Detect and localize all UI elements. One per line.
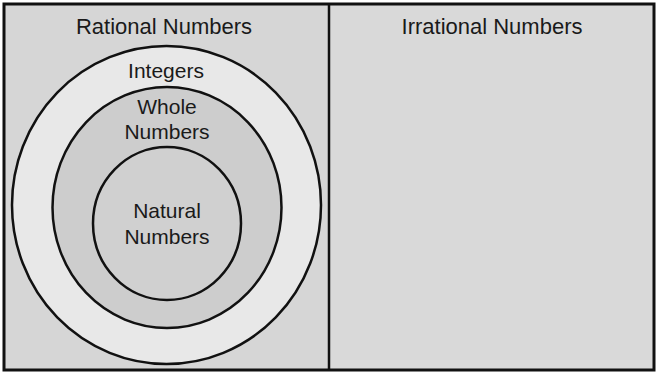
natural-numbers-label-line2: Numbers: [124, 225, 209, 248]
rational-numbers-label: Rational Numbers: [76, 14, 252, 39]
irrational-panel: [329, 4, 654, 370]
whole-numbers-label-line2: Numbers: [124, 120, 209, 143]
natural-numbers-set: [93, 147, 241, 300]
integers-label: Integers: [128, 59, 204, 82]
whole-numbers-label-line1: Whole: [137, 95, 197, 118]
natural-numbers-label-line1: Natural: [133, 199, 201, 222]
number-system-diagram: Rational Numbers Irrational Numbers Inte…: [0, 0, 656, 381]
irrational-numbers-label: Irrational Numbers: [402, 14, 583, 39]
